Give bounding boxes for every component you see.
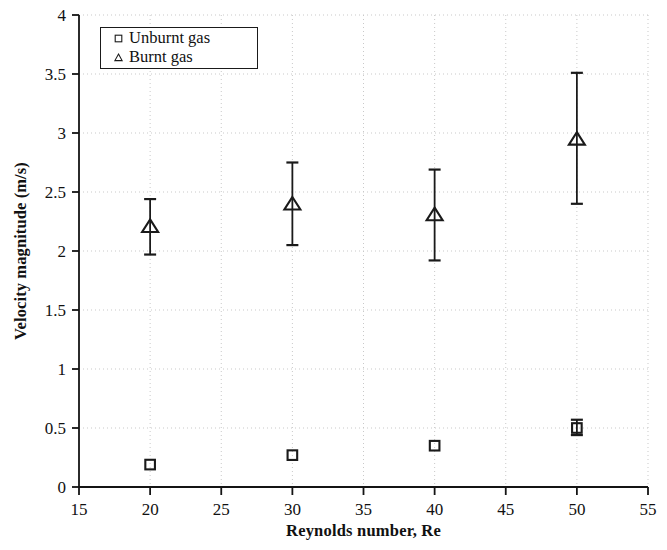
y-tick-label: 0	[20, 479, 66, 496]
x-tick-label: 50	[568, 501, 585, 518]
x-tick-label: 45	[497, 501, 514, 518]
chart-legend: Unburnt gas Burnt gas	[100, 27, 258, 69]
data-point-marker	[430, 441, 440, 451]
square-marker-icon	[110, 33, 126, 44]
x-tick-label: 55	[640, 501, 657, 518]
gridlines	[79, 15, 648, 487]
legend-item-unburnt-gas: Unburnt gas	[101, 29, 257, 48]
y-tick-label: 3	[20, 125, 66, 142]
x-axis-title: Reynolds number, Re	[79, 521, 648, 541]
legend-label-unburnt-gas: Unburnt gas	[126, 30, 210, 47]
y-tick-label: 4	[20, 7, 66, 24]
x-tick-label: 15	[71, 501, 88, 518]
y-tick-label: 1	[20, 361, 66, 378]
y-tick-label: 2.5	[20, 184, 66, 201]
x-tick-label: 35	[355, 501, 372, 518]
x-tick-label: 40	[426, 501, 443, 518]
x-tick-label: 30	[284, 501, 301, 518]
y-tick-label: 3.5	[20, 66, 66, 83]
triangle-marker-icon	[110, 52, 126, 63]
axis-ticks	[72, 15, 648, 495]
y-tick-label: 0.5	[20, 420, 66, 437]
series-burnt-gas	[142, 73, 585, 261]
y-tick-label: 2	[20, 243, 66, 260]
plot-canvas	[0, 0, 667, 550]
velocity-vs-reynolds-chart: Velocity magnitude (m/s) Reynolds number…	[0, 0, 667, 550]
series-unburnt-gas	[145, 420, 583, 470]
x-tick-label: 20	[142, 501, 159, 518]
legend-item-burnt-gas: Burnt gas	[101, 48, 257, 67]
y-tick-label: 1.5	[20, 302, 66, 319]
legend-label-burnt-gas: Burnt gas	[126, 49, 193, 66]
x-tick-label: 25	[213, 501, 230, 518]
